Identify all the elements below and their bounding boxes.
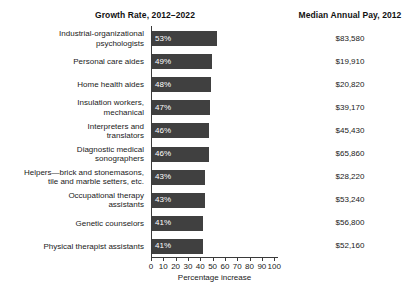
bar: 46% — [152, 147, 209, 162]
x-axis-tick-mark — [262, 258, 263, 261]
median-pay-value: $45,430 — [292, 126, 408, 135]
median-pay-value: $20,820 — [292, 80, 408, 89]
category-label: Helpers—brick and stonemasons,tile and m… — [0, 168, 144, 187]
bar-value-label: 43% — [155, 196, 171, 204]
median-pay-value: $28,220 — [292, 172, 408, 181]
median-pay-column: $83,580$19,910$20,820$39,170$45,430$65,8… — [292, 26, 408, 258]
median-pay-value: $65,860 — [292, 149, 408, 158]
bar: 53% — [152, 31, 217, 46]
category-label: Genetic counselors — [0, 219, 144, 228]
category-label-line: psychologists — [96, 39, 144, 48]
category-label: Diagnostic medicalsonographers — [0, 145, 144, 164]
category-label-line: Home health aides — [77, 80, 144, 89]
category-label-line: Helpers—brick and stonemasons, — [24, 168, 144, 177]
median-pay-value: $56,800 — [292, 218, 408, 227]
category-label-line: assistants — [108, 200, 144, 209]
bar-value-label: 41% — [155, 219, 171, 227]
category-label-line: Occupational therapy — [68, 191, 144, 200]
bar-value-label: 46% — [155, 127, 171, 135]
x-axis-label: Percentage increase — [151, 273, 278, 282]
bar-value-label: 43% — [155, 173, 171, 181]
median-pay-column-title: Median Annual Pay, 2012 — [292, 10, 408, 20]
bar-chart: Industrial-organizationalpsychologistsPe… — [0, 26, 290, 276]
category-label-line: translators — [107, 131, 144, 140]
x-axis-tick-mark — [176, 258, 177, 261]
bar-value-label: 41% — [155, 242, 171, 250]
x-axis-tick-mark — [151, 258, 152, 261]
category-label-line: Physical therapist assistants — [44, 242, 145, 251]
category-label-line: Diagnostic medical — [77, 145, 144, 154]
bar: 41% — [152, 239, 203, 254]
bar-value-label: 47% — [155, 104, 171, 112]
x-axis-tick-mark — [188, 258, 189, 261]
category-label: Home health aides — [0, 80, 144, 89]
bar: 49% — [152, 54, 212, 69]
category-label-line: sonographers — [95, 154, 144, 163]
bar-value-label: 48% — [155, 81, 171, 89]
bar: 43% — [152, 170, 205, 185]
x-axis-tick-mark — [200, 258, 201, 261]
category-label-line: Genetic counselors — [76, 219, 144, 228]
category-label: Personal care aides — [0, 57, 144, 66]
category-labels: Industrial-organizationalpsychologistsPe… — [0, 26, 148, 258]
bar: 48% — [152, 77, 211, 92]
bar-value-label: 46% — [155, 150, 171, 158]
x-axis-tick-mark — [237, 258, 238, 261]
x-axis-tick-mark — [274, 258, 275, 261]
category-label-line: Industrial-organizational — [59, 29, 144, 38]
bar: 46% — [152, 123, 209, 138]
chart-page: Growth Rate, 2012–2022 Median Annual Pay… — [0, 0, 408, 303]
bar: 41% — [152, 216, 203, 231]
x-axis-tick-mark — [250, 258, 251, 261]
bar: 43% — [152, 193, 205, 208]
category-label: Physical therapist assistants — [0, 242, 144, 251]
category-label-line: Interpreters and — [88, 122, 144, 131]
category-label: Occupational therapyassistants — [0, 191, 144, 210]
median-pay-value: $52,160 — [292, 241, 408, 250]
category-label: Interpreters andtranslators — [0, 122, 144, 141]
bar-value-label: 49% — [155, 58, 171, 66]
category-label-line: mechanical — [104, 108, 144, 117]
category-label-line: Personal care aides — [73, 57, 144, 66]
x-axis-tick-label: 100 — [264, 262, 284, 271]
median-pay-value: $83,580 — [292, 34, 408, 43]
category-label-line: Insulation workers, — [77, 98, 144, 107]
x-axis-tick-mark — [213, 258, 214, 261]
x-axis-tick-mark — [163, 258, 164, 261]
median-pay-value: $39,170 — [292, 103, 408, 112]
growth-rate-column-title: Growth Rate, 2012–2022 — [0, 10, 290, 20]
plot-area: 53%49%48%47%46%46%43%43%41%41% — [151, 26, 278, 258]
category-label: Insulation workers,mechanical — [0, 98, 144, 117]
category-label-line: tile and marble setters, etc. — [48, 177, 144, 186]
median-pay-value: $19,910 — [292, 57, 408, 66]
category-label: Industrial-organizationalpsychologists — [0, 29, 144, 48]
bar: 47% — [152, 100, 210, 115]
median-pay-value: $53,240 — [292, 195, 408, 204]
bar-value-label: 53% — [155, 35, 171, 43]
x-axis-tick-mark — [225, 258, 226, 261]
